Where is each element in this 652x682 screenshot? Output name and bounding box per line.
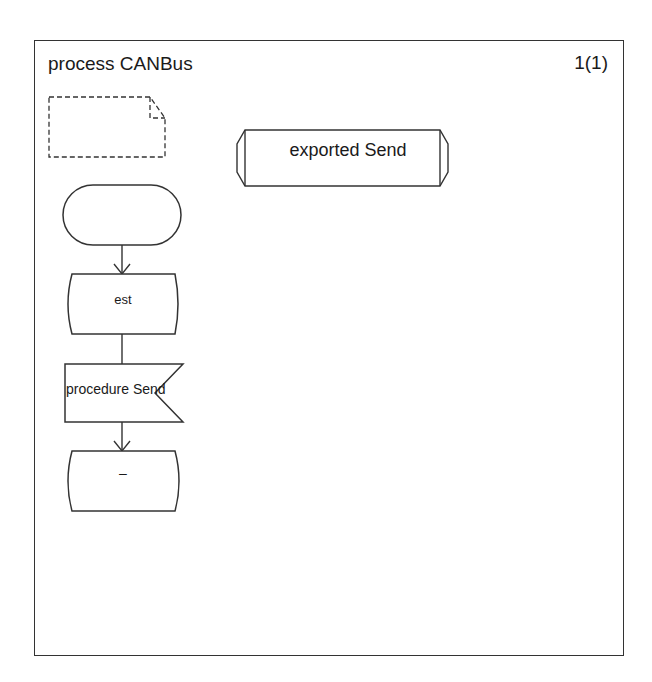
nextstate-label: – — [62, 465, 184, 481]
procedure-reference-label: exported Send — [258, 140, 438, 161]
input-label: procedure Send — [66, 381, 206, 397]
flow-connector — [114, 245, 130, 274]
state-label: est — [62, 292, 184, 307]
nextstate-symbol[interactable] — [68, 451, 179, 511]
start-symbol[interactable] — [63, 185, 181, 245]
flow-connector — [114, 422, 130, 451]
text-symbol[interactable] — [49, 97, 165, 157]
diagram-canvas — [0, 0, 652, 682]
